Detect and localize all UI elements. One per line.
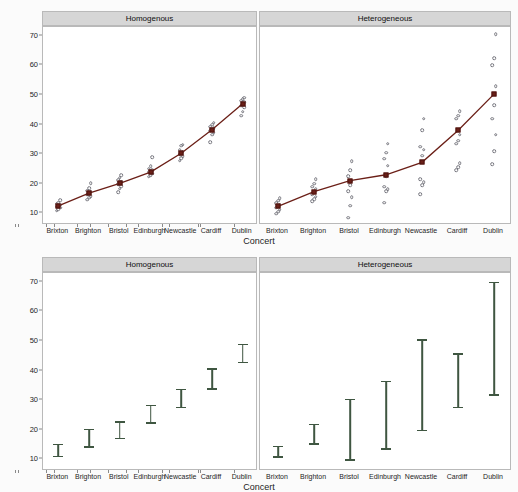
x-tick-label: Edinburgh [369,473,401,480]
observation-point [314,195,318,199]
observation-point [58,199,62,203]
error-bar-upper-cap [84,429,94,431]
x-tick-label: Brighton [300,473,326,480]
error-bar-lower-cap [207,388,217,390]
x-tick-mark [126,224,127,227]
x-tick-mark [108,224,109,227]
error-bar [385,381,387,448]
y-tick-label: 50 [2,89,38,98]
panel-top-left [42,26,257,224]
x-tick-mark [77,470,78,473]
error-bar [58,444,60,456]
x-tick-mark [126,470,127,473]
x-tick-label: Edinburgh [134,227,166,234]
bottom-y-axis: 10203040506070 [0,246,40,492]
x-tick-label: Dublin [232,473,252,480]
y-tick-label: 40 [2,365,38,374]
observation-point [312,182,316,186]
y-tick-label: 40 [2,119,38,128]
x-tick-label: Brixton [46,227,68,234]
x-tick-mark [138,224,139,227]
x-axis-labels-bottom-left: BrixtonBrightonBristolEdinburghNewcastle… [42,473,257,487]
y-tick-label: 30 [2,149,38,158]
mean-connector-line [43,27,256,223]
error-bar-upper-cap [115,421,125,423]
x-tick-label: Brixton [266,227,288,234]
error-bar [457,353,459,406]
group-mean-marker [148,170,153,175]
bottom-x-axis-title: Concert [243,482,275,492]
panel-title-text: Heterogeneous [358,14,413,23]
x-tick-label: Dublin [232,227,252,234]
x-tick-label: Brixton [266,473,288,480]
error-bar-upper-cap [309,424,319,426]
y-tick-label: 10 [2,454,38,463]
observation-point [491,117,495,121]
observation-point [494,133,498,137]
x-tick-mark [15,470,16,473]
group-mean-marker [240,101,245,106]
top-x-axis-title: Concert [243,236,275,246]
x-tick-label: Brighton [75,473,101,480]
group-mean-marker [179,151,184,156]
error-bar-upper-cap [273,446,283,448]
plot-area-top-right [260,27,510,223]
error-bar-lower-cap [84,446,94,448]
observation-point [149,165,153,169]
group-mean-marker [87,191,92,196]
x-tick-mark [198,224,199,227]
observation-point [212,121,216,125]
error-bar [493,282,495,394]
observation-point [491,163,495,167]
panel-title-bottom-right: Heterogeneous [259,257,511,272]
x-tick-mark [162,470,163,473]
panel-title-text: Heterogeneous [358,260,413,269]
x-tick-mark [169,470,170,473]
error-bar-upper-cap [238,344,248,346]
x-tick-mark [198,470,199,473]
error-bar-upper-cap [53,444,63,446]
observation-point [348,169,352,173]
group-mean-marker [348,178,353,183]
panel-bottom-right [259,272,511,470]
x-tick-mark [200,470,201,473]
panel-top-right [259,26,511,224]
observation-point [241,110,245,114]
observation-point [456,114,460,118]
observation-point [386,142,390,146]
error-bar [211,368,213,388]
x-tick-label: Bristol [339,227,358,234]
error-bar-lower-cap [273,456,283,458]
x-tick-label: Cardiff [447,227,468,234]
error-bar [150,405,152,423]
error-bar-upper-cap [489,282,499,284]
group-mean-marker [56,203,61,208]
group-mean-marker [456,128,461,133]
y-tick-label: 20 [2,424,38,433]
error-bar-lower-cap [238,362,248,364]
observation-point [116,191,120,195]
observation-point [491,64,495,68]
x-tick-mark [138,470,139,473]
observation-point [458,109,462,113]
error-bar-upper-cap [345,399,355,401]
x-tick-mark [234,470,235,473]
observation-point [348,204,352,208]
error-bar [242,344,244,362]
x-tick-label: Newcastle [405,227,437,234]
x-tick-label: Newcastle [405,473,437,480]
observation-point [383,185,387,189]
observation-point [347,216,351,220]
plot-area-bottom-right [260,273,510,469]
error-bar-lower-cap [381,448,391,450]
mean-connector-line [260,27,510,223]
error-bar-upper-cap [176,389,186,391]
x-tick-mark [46,224,47,227]
x-tick-label: Brighton [75,227,101,234]
x-tick-label: Brixton [46,473,68,480]
observation-point [347,189,351,193]
observation-point [458,161,462,165]
error-bar-upper-cap [417,339,427,341]
panel-bottom-left [42,272,257,470]
x-axis-labels-bottom-right: BrixtonBrightonBristolEdinburghNewcastle… [259,473,511,487]
